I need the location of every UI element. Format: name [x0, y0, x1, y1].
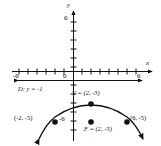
point-focus — [88, 119, 94, 125]
point-latus-left — [52, 119, 58, 125]
origin-label: 0 — [63, 73, 67, 80]
vertex-label: V = (2, -3) — [72, 90, 100, 97]
x-axis-name: x — [146, 60, 149, 67]
point-vertex — [88, 101, 94, 107]
y-tick-label-neg6: -6 — [59, 116, 65, 123]
directrix-label: D: y = -1 — [18, 86, 42, 93]
x-axis — [12, 69, 152, 75]
y-axis-name: y — [67, 2, 70, 9]
y-tick-label-6: 6 — [64, 15, 68, 22]
latus-right-label: (6, -5) — [130, 115, 146, 122]
latus-left-label: (-2, -5) — [14, 115, 32, 122]
x-tick-label-neg6: -6 — [13, 73, 19, 80]
parabola-figure: y x 6 0 -6 -6 6 D: y = -1 V = (2, -3) F … — [0, 0, 161, 146]
x-tick-label-6: 6 — [137, 73, 141, 80]
point-latus-right — [124, 119, 130, 125]
focus-label: F = (2, -5) — [84, 126, 112, 133]
y-axis — [71, 11, 77, 141]
